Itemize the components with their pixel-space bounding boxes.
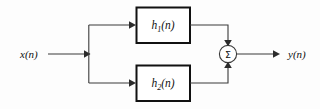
sigma-icon: Σ [225,49,231,60]
wire-h2-to-adder [190,62,232,84]
wire-h1-to-adder [190,25,232,47]
block-h1[interactable]: h1(n) [137,8,191,44]
block-diagram-canvas: h1(n) h2(n) Σ x(n) y(n) [0,0,320,109]
wire-to-h2 [89,79,136,87]
input-label: x(n) [19,48,38,61]
output-wire [237,50,280,58]
block-diagram-svg: h1(n) h2(n) Σ x(n) y(n) [0,0,320,109]
summing-junction[interactable]: Σ [219,45,236,62]
input-wire [48,50,91,58]
block-h2[interactable]: h2(n) [137,66,191,102]
output-label: y(n) [287,48,306,61]
branch-point-node [88,53,90,55]
wire-to-h1 [89,21,136,29]
